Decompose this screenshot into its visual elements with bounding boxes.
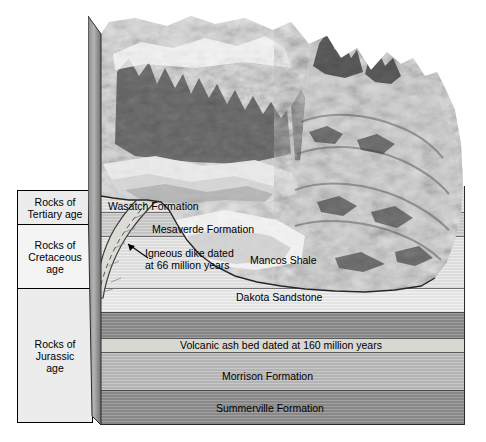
legend-item-tertiary: Rocks of Tertiary age [18, 191, 92, 225]
legend-tertiary-line1: Rocks of [28, 196, 83, 208]
legend-cretaceous-line2: Cretaceous [28, 251, 82, 263]
legend-jurassic-line1: Rocks of [35, 338, 76, 350]
legend-item-jurassic: Rocks of Jurassic age [18, 289, 92, 422]
legend-item-cretaceous: Rocks of Cretaceous age [18, 225, 92, 289]
dike-annotation: Igneous dike dated at 66 million years [145, 247, 234, 271]
legend-cretaceous-line3: age [28, 263, 82, 275]
label-dakota-sandstone: Dakota Sandstone [236, 291, 322, 303]
legend-jurassic-line2: Jurassic [35, 350, 76, 362]
block-side-face [88, 16, 102, 425]
label-mancos-shale: Mancos Shale [250, 254, 317, 266]
label-morrison: Morrison Formation [222, 370, 313, 382]
dike-annotation-line1: Igneous dike dated [145, 247, 234, 259]
dike-annotation-line2: at 66 million years [145, 259, 234, 271]
legend-cretaceous-line1: Rocks of [28, 239, 82, 251]
geologic-block-diagram-figure: Wasatch Formation Mesaverde Formation Ma… [0, 0, 486, 442]
age-legend: Rocks of Tertiary age Rocks of Cretaceou… [17, 190, 93, 423]
label-volcanic-ash-bed: Volcanic ash bed dated at 160 million ye… [180, 339, 382, 351]
legend-tertiary-line2: Tertiary age [28, 208, 83, 220]
dike-leader-arrow [118, 240, 150, 262]
legend-jurassic-line3: age [35, 362, 76, 374]
label-summerville: Summerville Formation [216, 402, 324, 414]
label-wasatch: Wasatch Formation [108, 200, 199, 212]
label-mesaverde: Mesaverde Formation [152, 223, 254, 235]
